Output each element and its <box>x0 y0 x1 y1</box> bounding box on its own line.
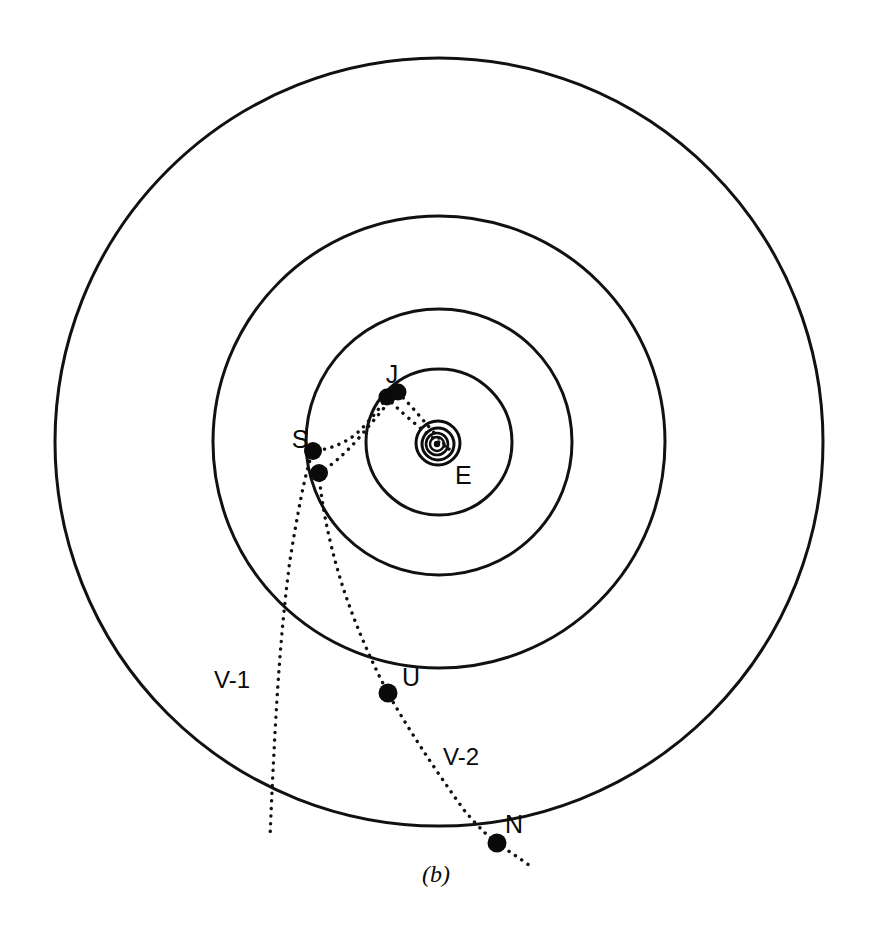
voyager-trajectory-figure: J S E U N V-1 V-2 (b) <box>0 0 872 937</box>
label-voyager-2: V-2 <box>443 743 479 770</box>
solar-system-diagram: J S E U N V-1 V-2 (b) <box>0 0 872 937</box>
figure-caption: (b) <box>422 861 450 887</box>
label-saturn: S <box>292 425 309 453</box>
label-voyager-1: V-1 <box>214 666 250 693</box>
label-uranus: U <box>402 663 420 691</box>
label-neptune: N <box>505 810 523 838</box>
marker-neptune <box>488 834 507 853</box>
label-earth: E <box>455 461 472 489</box>
marker-saturn-v2 <box>310 464 328 482</box>
marker-uranus <box>379 684 398 703</box>
planet-markers <box>304 384 507 853</box>
label-jupiter: J <box>386 360 399 388</box>
trajectory-voyager-2 <box>319 392 530 866</box>
